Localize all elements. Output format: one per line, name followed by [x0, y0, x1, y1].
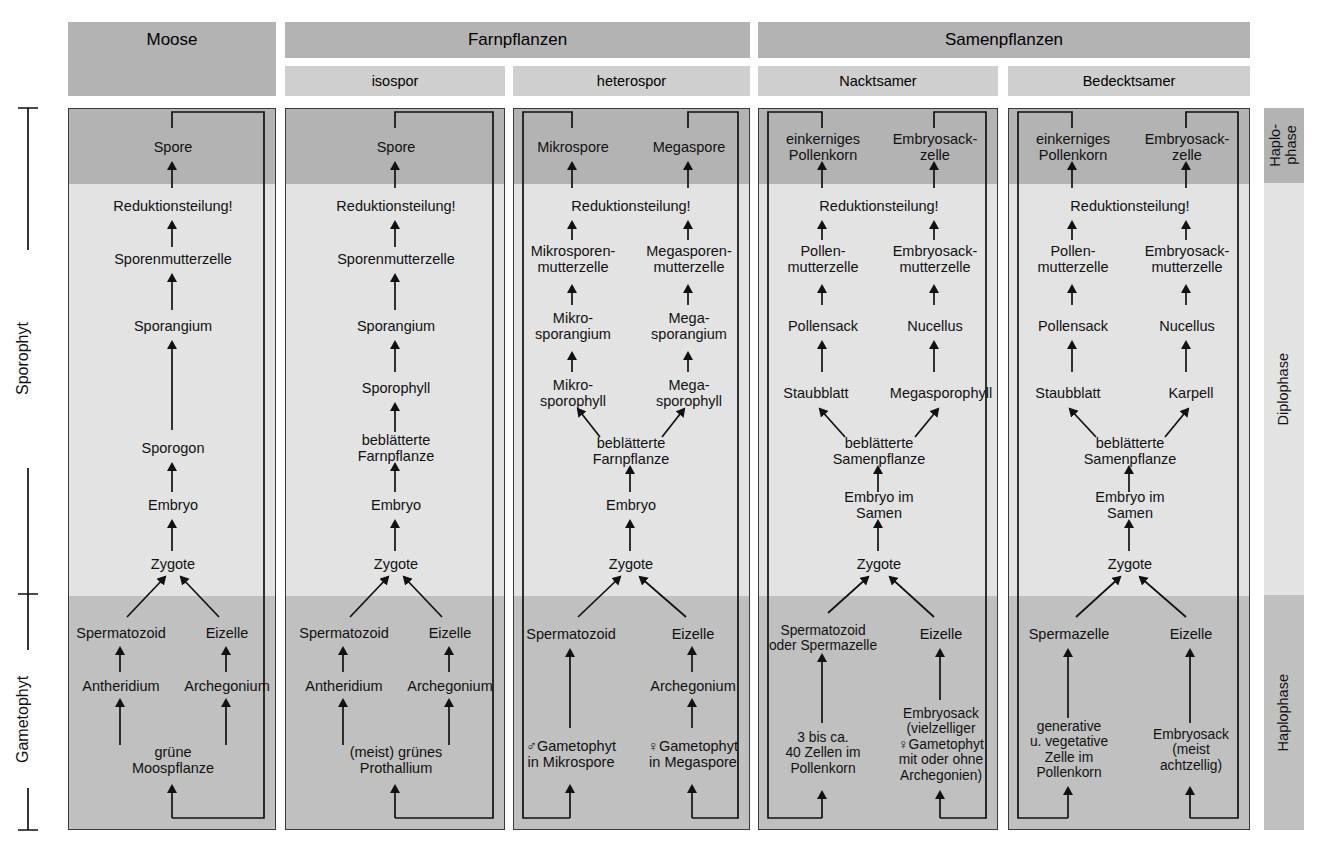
stage-label: Reduktionsteilung! [819, 198, 938, 214]
bracket-label-1: Gametophyt [14, 650, 32, 788]
stage-label: Mikrospore [537, 139, 609, 155]
stage-label: grüne Moospflanze [122, 744, 224, 776]
group-header-0: Moose [68, 22, 276, 58]
stage-label: Spore [377, 139, 416, 155]
stage-label: Pollen- mutterzelle [1038, 243, 1109, 275]
stage-label: Zygote [1108, 556, 1152, 572]
stage-label: Reduktionsteilung! [571, 198, 690, 214]
phase-strip-0: Haplo- phase [1264, 108, 1304, 183]
stage-label: Embryosack- zelle [893, 131, 978, 163]
phase-label: Diplophase [1276, 353, 1292, 426]
lifecycle-column-nacktsamer: einkerniges PollenkornEmbryosack- zelleR… [758, 108, 998, 830]
subgroup-header-3: Bedecktsamer [1008, 66, 1250, 96]
diplophase-band [69, 184, 275, 596]
stage-label: Embryosack (vielzelliger ♀Gametophyt mit… [898, 706, 984, 783]
stage-label: Reduktionsteilung! [113, 198, 232, 214]
stage-label: ♀Gametophyt in Megaspore [648, 738, 738, 770]
stage-label: Embryo [606, 497, 656, 513]
stage-label: Reduktionsteilung! [336, 198, 455, 214]
stage-label: Zygote [857, 556, 901, 572]
stage-label: Megaspore [653, 139, 726, 155]
stage-label: Sporangium [134, 318, 212, 334]
stage-label: Embryosack (meist achtzellig) [1153, 727, 1229, 773]
stage-label: Embryo im Samen [820, 489, 938, 521]
stage-label: Nucellus [907, 318, 963, 334]
lifecycle-column-bedecktsamer: einkerniges PollenkornEmbryosack- zelleR… [1008, 108, 1250, 830]
stage-label: Sporangium [357, 318, 435, 334]
stage-label: Zygote [609, 556, 653, 572]
stage-label: Sporenmutterzelle [337, 251, 455, 267]
lifecycle-column-heterospor: MikrosporeMegasporeReduktionsteilung!Mik… [513, 108, 750, 830]
stage-label: Mikro- sporangium [535, 310, 611, 342]
stage-label: beblätterte Farnpflanze [572, 435, 690, 467]
group-header-2: Samenpflanzen [758, 22, 1250, 58]
stage-label: Nucellus [1159, 318, 1215, 334]
stage-label: Megasporophyll [890, 385, 992, 401]
stage-label: Antheridium [305, 678, 382, 694]
stage-label: Archegonium [184, 678, 269, 694]
subgroup-header-2: Nacktsamer [758, 66, 998, 96]
stage-label: Sporenmutterzelle [114, 251, 232, 267]
stage-label: Zygote [151, 556, 195, 572]
stage-label: Embryosack- mutterzelle [1145, 243, 1230, 275]
stage-label: Spermatozoid oder Spermazelle [769, 623, 877, 654]
bracket-label-0: Sporophyt [14, 250, 32, 468]
stage-label: 3 bis ca. 40 Zellen im Pollenkorn [785, 730, 860, 776]
stage-label: Archegonium [407, 678, 492, 694]
stage-label: Spermatozoid [526, 626, 615, 642]
lifecycle-column-isospor: SporeReduktionsteilung!Sporenmutterzelle… [285, 108, 505, 830]
phase-label: Haplo- phase [1268, 124, 1300, 167]
stage-label: Eizelle [1170, 626, 1213, 642]
stage-label: Reduktionsteilung! [1070, 198, 1189, 214]
stage-label: (meist) grünes Prothallium [342, 744, 450, 776]
stage-label: generative u. vegetative Zelle im Pollen… [1030, 719, 1108, 781]
stage-label: Mega- sporangium [651, 310, 727, 342]
phase-strip-2: Haplophase [1264, 595, 1304, 830]
stage-label: beblätterte Farnpflanze [342, 432, 450, 464]
stage-label: Embryo [371, 497, 421, 513]
stage-label: Embryo [148, 497, 198, 513]
stage-label: Sporophyll [362, 380, 431, 396]
stage-label: Embryosack- mutterzelle [893, 243, 978, 275]
phase-strip-1: Diplophase [1264, 183, 1304, 595]
stage-label: Megasporen- mutterzelle [646, 243, 731, 275]
stage-label: Embryosack- zelle [1145, 131, 1230, 163]
subgroup-header-1: heterospor [513, 66, 750, 96]
stage-label: Pollensack [788, 318, 858, 334]
stage-label: Sporogon [142, 440, 205, 456]
stage-label: Embryo im Samen [1071, 489, 1190, 521]
stage-label: Eizelle [429, 625, 472, 641]
stage-label: Antheridium [82, 678, 159, 694]
stage-label: Staubblatt [1035, 385, 1100, 401]
group-header-1: Farnpflanzen [285, 22, 750, 58]
stage-label: ♂Gametophyt in Mikrospore [526, 738, 616, 770]
stage-label: beblätterte Samenpflanze [820, 435, 938, 467]
stage-label: Pollen- mutterzelle [788, 243, 859, 275]
stage-label: Spermatozoid [76, 625, 165, 641]
moose-header-extension [68, 58, 276, 96]
stage-label: Pollensack [1038, 318, 1108, 334]
lifecycle-column-moose: SporeReduktionsteilung!Sporenmutterzelle… [68, 108, 276, 830]
stage-label: Archegonium [650, 678, 735, 694]
phase-label: Haplophase [1276, 674, 1292, 751]
stage-label: Spore [154, 139, 193, 155]
stage-label: einkerniges Pollenkorn [786, 131, 860, 163]
subgroup-header-0: isospor [285, 66, 505, 96]
stage-label: Spermatozoid [299, 625, 388, 641]
stage-label: Mikro- sporophyll [540, 377, 606, 409]
stage-label: Karpell [1168, 385, 1213, 401]
stage-label: Mega- sporophyll [656, 377, 722, 409]
stage-label: Staubblatt [783, 385, 848, 401]
stage-label: Eizelle [206, 625, 249, 641]
stage-label: Spermazelle [1029, 626, 1110, 642]
stage-label: Eizelle [920, 626, 963, 642]
stage-label: einkerniges Pollenkorn [1036, 131, 1110, 163]
stage-label: Eizelle [672, 626, 715, 642]
stage-label: beblätterte Samenpflanze [1071, 435, 1190, 467]
stage-label: Mikrosporen- mutterzelle [531, 243, 616, 275]
stage-label: Zygote [374, 556, 418, 572]
